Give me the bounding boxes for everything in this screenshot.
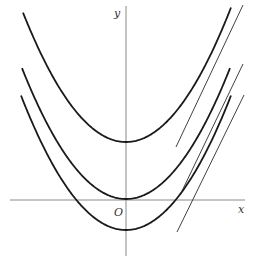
middle-tangent-line	[182, 64, 243, 191]
y-axis-label: y	[113, 7, 121, 20]
x-axis-label: x	[238, 203, 245, 216]
lower-tangent-line	[177, 95, 244, 232]
origin-label: O	[114, 206, 123, 219]
upper-tangent-line	[176, 5, 243, 147]
tangent-lines	[176, 5, 244, 232]
parabola-diagram: y x O	[0, 0, 256, 264]
upper-parabola	[23, 7, 231, 142]
